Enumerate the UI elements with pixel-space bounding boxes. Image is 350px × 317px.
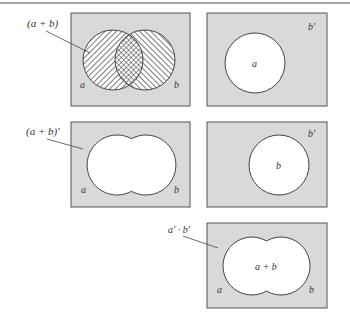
set-label-b: b (174, 184, 179, 195)
panel-a-plus-b: (a + b) a b (27, 13, 190, 106)
circle-label: b (276, 160, 281, 171)
corner-label: b' (308, 21, 316, 32)
venn-diagram-figure: (a + b) a b a b' (a + b)' a b b b' a + b… (0, 0, 350, 317)
panel-a-complement-and-b-complement: a + b a' · b' a b (168, 223, 327, 308)
set-label-a: a (217, 284, 222, 295)
circle-label: a (252, 58, 257, 69)
center-label: a + b (255, 261, 277, 272)
set-label-a: a (81, 184, 86, 195)
panel-a-plus-b-complement: (a + b)' a b (26, 122, 190, 207)
corner-label: b' (308, 128, 316, 139)
panel-b-and-b-complement: b b' (207, 122, 327, 207)
callout-label: a' · b' (168, 224, 191, 235)
set-label-b: b (174, 79, 179, 90)
callout-label: (a + b) (27, 17, 59, 30)
callout-label: (a + b)' (26, 125, 60, 138)
set-label-a: a (80, 79, 85, 90)
set-label-b: b (309, 284, 314, 295)
panel-a-in-b-complement: a b' (207, 13, 327, 106)
